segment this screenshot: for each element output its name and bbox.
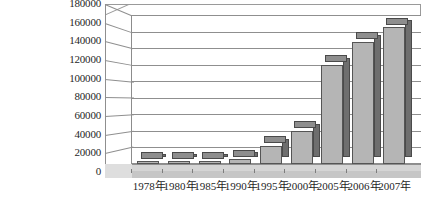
x-axis-tick-labels: 1978年1980年1985年1990年1995年2000年2005年2006年… (0, 180, 436, 200)
bar-column (199, 154, 228, 164)
chart-container: 0200004000060000800001000001200001400001… (0, 0, 436, 207)
bar-side-face (313, 124, 320, 157)
bar-top-face (325, 55, 347, 62)
bar-column (352, 35, 381, 165)
y-axis-tick-label: 120000 (0, 54, 101, 65)
bar-front-face (229, 159, 251, 164)
bar-column (137, 154, 166, 164)
bar-front-face (168, 161, 190, 164)
x-axis-tick-label: 2007年 (372, 180, 418, 193)
bar-top-face (264, 136, 286, 143)
x-axis-tick-mark (131, 169, 132, 173)
y-axis-tick-label: 40000 (0, 129, 101, 140)
x-axis-tick-mark (284, 169, 285, 173)
bar-front-face (383, 27, 405, 164)
bar-front-face (137, 161, 159, 164)
chart-bars (105, 4, 421, 178)
bar-side-face (405, 20, 412, 157)
y-axis-tick-label: 180000 (0, 0, 101, 9)
bar-front-face (260, 146, 282, 164)
y-axis-tick-label: 160000 (0, 17, 101, 28)
bar-column (260, 139, 289, 164)
bar-side-face (343, 58, 350, 157)
y-axis-tick-label: 0 (0, 166, 101, 177)
x-axis-tick-mark (254, 169, 255, 173)
y-axis-tick-label: 80000 (0, 91, 101, 102)
y-axis-tick-label: 20000 (0, 147, 101, 158)
bar-front-face (352, 42, 374, 165)
bar-top-face (172, 152, 194, 159)
x-axis-tick-mark (162, 169, 163, 173)
bar-column (383, 20, 412, 164)
bar-top-face (294, 121, 316, 128)
bar-top-face (233, 150, 255, 157)
bar-side-face (374, 35, 381, 158)
bar-front-face (291, 131, 313, 164)
x-axis-tick-mark (223, 169, 224, 173)
x-axis-tick-mark (376, 169, 377, 173)
bar-top-face (202, 152, 224, 159)
y-axis-tick-label: 60000 (0, 110, 101, 121)
bar-column (321, 58, 350, 164)
x-axis-tick-mark (192, 169, 193, 173)
bar-column (229, 152, 258, 164)
x-axis-tick-mark (315, 169, 316, 173)
y-axis-tick-label: 100000 (0, 73, 101, 84)
bar-top-face (356, 32, 378, 39)
bar-top-face (386, 18, 408, 25)
x-axis-tick-mark (346, 169, 347, 173)
bar-column (168, 154, 197, 164)
bar-front-face (199, 161, 221, 164)
bar-front-face (321, 65, 343, 164)
y-axis-tick-label: 140000 (0, 35, 101, 46)
bar-top-face (141, 152, 163, 159)
bar-column (291, 124, 320, 164)
